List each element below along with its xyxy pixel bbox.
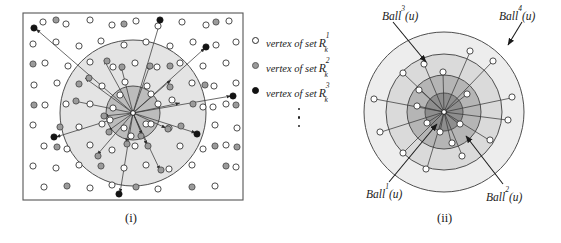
- legend-label-r1: vertex of setR1k: [266, 30, 333, 58]
- panel-i: [23, 13, 243, 200]
- legend-item-r3: vertex of setR3k: [252, 80, 367, 105]
- panel-i-caption: (i): [125, 211, 137, 226]
- panel-ii-caption: (ii): [437, 211, 452, 226]
- vertical-ellipsis-icon: [298, 108, 300, 133]
- ball4-label: Ball4(u): [499, 8, 535, 22]
- ball2-label: Ball2(u): [486, 189, 522, 203]
- black-circle-icon: [252, 87, 259, 94]
- leader-ball4: [508, 22, 522, 45]
- panel-ii: [364, 22, 524, 192]
- panel-i-center-vertex: [131, 111, 136, 116]
- legend-item-r1: vertex of setR1k: [252, 30, 367, 55]
- legend-label-r3: vertex of setR3k: [266, 80, 333, 108]
- ball3-label: Ball3(u): [382, 8, 418, 22]
- open-circle-icon: [252, 37, 259, 44]
- ball1-label: Ball1(u): [366, 186, 402, 200]
- legend-item-r2: vertex of setR2k: [252, 55, 367, 80]
- gray-circle-icon: [252, 62, 259, 69]
- legend: vertex of setR1k vertex of setR2k vertex…: [252, 30, 367, 105]
- figure-container: vertex of setR1k vertex of setR2k vertex…: [0, 0, 561, 243]
- panel-ii-center-vertex: [442, 110, 447, 115]
- legend-label-r2: vertex of setR2k: [266, 55, 333, 83]
